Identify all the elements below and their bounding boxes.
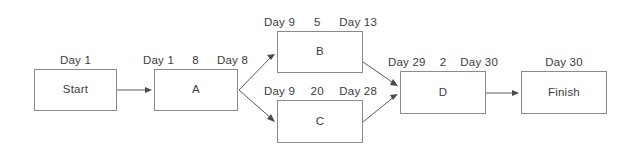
header-b-duration: 5 — [314, 17, 321, 29]
arrowhead-icon — [267, 54, 275, 60]
arrowhead-icon — [390, 94, 398, 100]
edge-start-to-a — [117, 87, 152, 93]
node-b[interactable]: B — [277, 31, 363, 73]
header-d-duration: 2 — [440, 57, 447, 69]
arrowhead-icon — [267, 114, 275, 122]
node-a[interactable]: A — [154, 69, 238, 111]
arrowhead-icon — [145, 87, 152, 93]
node-b-label: B — [316, 46, 324, 58]
node-header-c: Day 9 20 Day 28 — [264, 86, 377, 99]
header-c-start-day: Day 9 — [264, 86, 295, 98]
header-d-start-day: Day 29 — [388, 57, 426, 69]
header-c-finish-day: Day 28 — [339, 86, 377, 98]
header-a-duration: 8 — [192, 55, 199, 67]
network-diagram: Day 1 Start Day 1 8 Day 8 A Day 9 5 Day … — [0, 0, 629, 155]
header-finish-day: Day 30 — [545, 57, 583, 69]
node-finish[interactable]: Finish — [521, 71, 607, 114]
node-header-a: Day 1 8 Day 8 — [143, 55, 248, 68]
header-a-finish-day: Day 8 — [217, 55, 248, 67]
header-a-start-day: Day 1 — [143, 55, 174, 67]
node-d-label: D — [439, 87, 448, 99]
node-a-label: A — [192, 84, 200, 96]
header-b-finish-day: Day 13 — [339, 17, 377, 29]
node-header-start: Day 1 — [34, 55, 117, 68]
node-c[interactable]: C — [277, 100, 363, 143]
arrowhead-icon — [512, 90, 519, 96]
header-c-duration: 20 — [311, 86, 324, 98]
header-start-day: Day 1 — [60, 55, 91, 67]
node-d[interactable]: D — [400, 71, 486, 114]
node-header-b: Day 9 5 Day 13 — [264, 17, 377, 30]
node-c-label: C — [316, 116, 325, 128]
node-start-label: Start — [63, 84, 88, 96]
node-finish-label: Finish — [548, 87, 580, 99]
node-header-finish: Day 30 — [521, 57, 607, 70]
node-start[interactable]: Start — [34, 69, 117, 111]
node-header-d: Day 29 2 Day 30 — [388, 57, 498, 70]
edge-d-to-finish — [486, 90, 519, 96]
header-d-finish-day: Day 30 — [460, 57, 498, 69]
header-b-start-day: Day 9 — [264, 17, 295, 29]
arrowhead-icon — [390, 79, 398, 86]
